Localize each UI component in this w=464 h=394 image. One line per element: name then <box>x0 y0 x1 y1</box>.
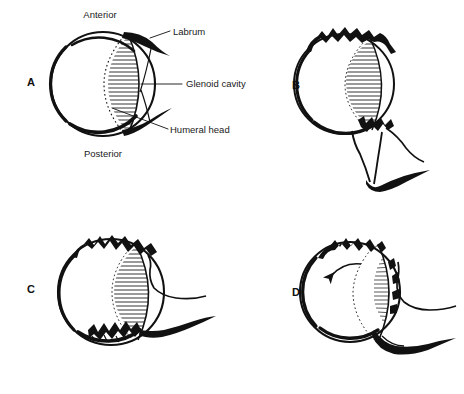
label-humeral-head: Humeral head <box>170 124 230 135</box>
label-posterior: Posterior <box>84 148 122 159</box>
panel-d-letter: D <box>292 286 300 298</box>
panel-a-letter: A <box>27 76 35 88</box>
panel-c-letter: C <box>27 283 35 295</box>
label-anterior: Anterior <box>83 9 116 20</box>
label-glenoid-cavity: Glenoid cavity <box>186 78 246 89</box>
label-labrum: Labrum <box>173 26 205 37</box>
figure-background <box>0 0 464 394</box>
shoulder-labrum-figure: A <box>0 0 464 394</box>
